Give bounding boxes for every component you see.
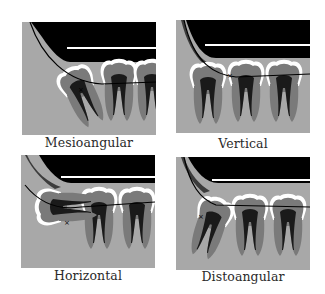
svg-text:×: × [198,213,204,221]
caption-distoangular: Distoangular [168,269,318,284]
mesioangular-illustration: × [22,22,156,135]
caption-mesioangular: Mesioangular [14,135,164,150]
svg-text:×: × [227,72,233,80]
panel-mesioangular: × [22,22,156,135]
svg-text:×: × [78,86,84,94]
distoangular-illustration: × [176,157,310,270]
panel-horizontal: × [21,155,155,268]
panel-distoangular: × [176,157,310,270]
svg-text:×: × [64,219,70,227]
vertical-illustration: × [176,20,310,133]
panel-vertical: × [176,20,310,133]
horizontal-illustration: × [21,155,155,268]
caption-vertical: Vertical [168,136,318,151]
caption-horizontal: Horizontal [13,268,163,283]
